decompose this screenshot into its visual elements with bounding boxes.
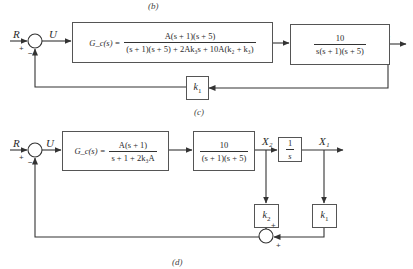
caption-b: (b) bbox=[148, 2, 159, 11]
d-output-label: X₁ bbox=[319, 136, 330, 147]
c-plant-block: 10 s(s + 1)(s + 5) bbox=[290, 24, 390, 65]
d-integrator-block: 1 s bbox=[278, 137, 302, 162]
d-controller-block: G_c(s) = A(s + 1) s + 1 + 2k₃A bbox=[62, 131, 169, 171]
d-integrator-numerator: 1 bbox=[286, 138, 294, 149]
d-k1-to-summer-path bbox=[274, 228, 324, 237]
c-input-label: R bbox=[13, 29, 20, 40]
d-plant-block: 10 (s + 1)(s + 5) bbox=[193, 131, 255, 171]
d-k1-subscript: 1 bbox=[325, 215, 329, 223]
c-control-label: U bbox=[49, 29, 57, 40]
c-feedback-k1-block: k1 bbox=[186, 76, 209, 100]
d-input-label: R bbox=[13, 138, 20, 149]
d-summing-junction bbox=[28, 143, 42, 157]
c-plant-numerator: 10 bbox=[334, 33, 347, 44]
d-feedback-summer bbox=[259, 229, 273, 243]
d-control-label: U bbox=[46, 138, 54, 149]
d-controller-name: G_c(s) = bbox=[74, 146, 105, 156]
d-summer-plus-bottom: + bbox=[276, 242, 281, 250]
c-controller-name: G_c(s) = bbox=[89, 38, 120, 48]
c-plus-sign: + bbox=[19, 45, 24, 53]
d-minus-sign: − bbox=[28, 159, 33, 167]
d-x2-label: X₂ bbox=[262, 136, 273, 147]
c-controller-block: G_c(s) = A(s + 1)(s + 5) (s + 1)(s + 5) … bbox=[72, 22, 273, 63]
d-k2-subscript: 2 bbox=[267, 215, 271, 223]
c-plant-denominator: s(s + 1)(s + 5) bbox=[314, 44, 366, 56]
d-plant-numerator: 10 bbox=[218, 140, 231, 151]
d-summer-plus-top: + bbox=[271, 222, 276, 230]
caption-d: (d) bbox=[172, 258, 183, 267]
d-plus-sign: + bbox=[19, 154, 24, 162]
d-plant-denominator: (s + 1)(s + 5) bbox=[200, 151, 249, 163]
c-minus-sign: − bbox=[28, 50, 33, 58]
d-controller-numerator: A(s + 1) bbox=[117, 140, 149, 151]
c-summing-junction bbox=[28, 34, 42, 48]
c-controller-numerator: A(s + 1)(s + 5) bbox=[163, 31, 218, 42]
c-controller-denominator: (s + 1)(s + 5) + 2Ak₃s + 10A(k₂ + k₃) bbox=[124, 42, 255, 54]
caption-c: (c) bbox=[194, 108, 204, 117]
d-feedback-k1-block: k1 bbox=[312, 204, 337, 228]
c-k1-subscript: 1 bbox=[198, 87, 202, 95]
d-integrator-denominator: s bbox=[286, 149, 293, 161]
d-controller-denominator: s + 1 + 2k₃A bbox=[109, 151, 156, 163]
